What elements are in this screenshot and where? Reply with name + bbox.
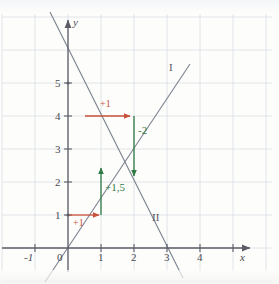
rise-annotations [101, 116, 134, 215]
y-axis-label: y [73, 17, 78, 28]
x-tick-label-neg1: -1 [24, 252, 33, 263]
grid-lines [2, 14, 272, 281]
line-two [50, 12, 183, 278]
x-tick-label-2: 2 [131, 252, 137, 263]
run-lower-label: +1 [73, 218, 84, 228]
line-two-label: II [152, 212, 159, 223]
fall-upper-label: -2 [138, 125, 147, 136]
x-tick-label-3: 3 [164, 252, 170, 263]
rise-lower-label: +1,5 [105, 182, 125, 193]
y-tick-label-2: 2 [55, 177, 61, 188]
line-one-label: I [169, 62, 173, 73]
x-axis-label: x [240, 252, 245, 263]
x-tick-label-1: 1 [98, 252, 104, 263]
x-tick-label-4: 4 [197, 252, 203, 263]
y-tick-label-1: 1 [55, 210, 61, 221]
run-upper-label: +1 [100, 99, 111, 109]
coordinate-plane-figure [0, 0, 279, 284]
y-tick-label-4: 4 [55, 111, 61, 122]
x-tick-label-0: 0 [57, 252, 63, 263]
y-tick-label-3: 3 [55, 144, 61, 155]
y-tick-label-5: 5 [55, 78, 61, 89]
axes [2, 20, 250, 272]
